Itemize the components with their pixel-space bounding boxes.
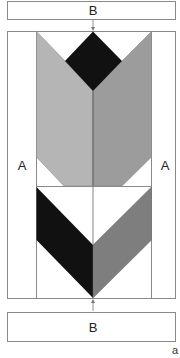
top-b-box: B bbox=[8, 2, 176, 20]
top-b-label: B bbox=[89, 3, 98, 18]
bottom-b-box: B bbox=[8, 313, 176, 342]
figure-tag-label: a bbox=[172, 344, 179, 356]
left-a-label: A bbox=[18, 158, 27, 173]
bottom-b-label: B bbox=[89, 320, 98, 335]
upper-section bbox=[37, 32, 152, 187]
right-a-label: A bbox=[161, 158, 170, 173]
quilt-block-diagram: B A A B a bbox=[0, 0, 180, 358]
